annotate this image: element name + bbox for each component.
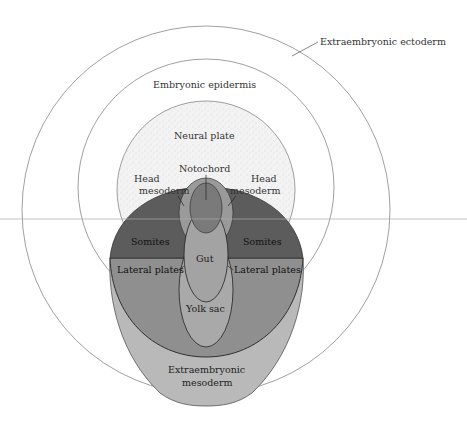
label-yolk-sac: Yolk sac [185, 303, 225, 314]
label-neural-plate: Neural plate [174, 130, 235, 141]
fate-map-diagram: Extraembryonic ectoderm Embryonic epider… [0, 0, 467, 421]
label-head-mesoderm-left-line1: Head [134, 173, 160, 184]
label-somites-left: Somites [131, 236, 170, 247]
label-lateral-plates-right: Lateral plates [234, 264, 301, 275]
label-extraembryonic-ectoderm: Extraembryonic ectoderm [320, 36, 446, 47]
label-somites-right: Somites [243, 236, 282, 247]
label-head-mesoderm-left-line2: mesoderm [139, 185, 189, 196]
leader-extraembryonic-ectoderm [292, 42, 318, 56]
label-head-mesoderm-right-line1: Head [251, 173, 277, 184]
label-lateral-plates-left: Lateral plates [117, 264, 184, 275]
label-extraembryonic-mesoderm-line2: mesoderm [182, 377, 232, 388]
label-gut: Gut [196, 253, 214, 264]
label-extraembryonic-mesoderm-line1: Extraembryonic [168, 364, 245, 375]
label-head-mesoderm-right-line2: mesoderm [230, 185, 280, 196]
label-notochord: Notochord [179, 163, 230, 174]
label-embryonic-epidermis: Embryonic epidermis [153, 79, 256, 90]
